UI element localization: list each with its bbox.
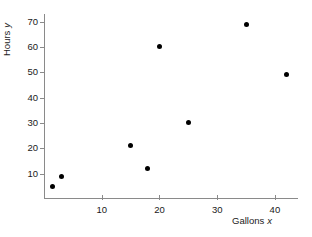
y-axis-line (44, 14, 45, 199)
data-point (244, 22, 249, 27)
y-axis-tick-label: 30 (27, 118, 38, 128)
data-point (145, 166, 150, 171)
y-axis-tick-label: 40 (27, 93, 38, 103)
y-axis-title-text: Hours (1, 31, 12, 56)
x-axis-tick-label: 30 (212, 205, 223, 215)
x-axis-line (44, 198, 298, 199)
plot-area: 10203040506070 10203040 (44, 14, 298, 199)
y-axis-tick (40, 98, 45, 99)
y-axis-variable: y (1, 23, 12, 28)
y-axis-tick (40, 174, 45, 175)
x-axis-tick (102, 195, 103, 200)
y-axis-tick (40, 148, 45, 149)
data-point (284, 72, 289, 77)
x-axis-tick-label: 40 (270, 205, 281, 215)
data-point (157, 44, 162, 49)
x-axis-tick (217, 195, 218, 200)
y-axis-tick-label: 60 (27, 42, 38, 52)
data-point (128, 143, 133, 148)
data-point (59, 174, 64, 179)
y-axis-tick-label: 70 (27, 17, 38, 27)
y-axis-tick (40, 47, 45, 48)
x-axis-tick (159, 195, 160, 200)
scatter-plot-figure: Hoursy Gallonsx 10203040506070 10203040 (0, 0, 312, 237)
data-point (186, 120, 191, 125)
data-point (50, 184, 55, 189)
x-axis-title-text: Gallons (232, 215, 264, 226)
y-axis-title: Hoursy (2, 23, 12, 56)
y-axis-tick-label: 10 (27, 169, 38, 179)
x-axis-variable: x (267, 215, 272, 226)
x-axis-title: Gallonsx (232, 216, 272, 226)
x-axis-tick-label: 20 (154, 205, 165, 215)
x-axis-tick (275, 195, 276, 200)
y-axis-tick (40, 72, 45, 73)
x-axis-tick-label: 10 (96, 205, 107, 215)
y-axis-tick-label: 50 (27, 68, 38, 78)
y-axis-tick-label: 20 (27, 144, 38, 154)
y-axis-tick (40, 22, 45, 23)
y-axis-tick (40, 123, 45, 124)
